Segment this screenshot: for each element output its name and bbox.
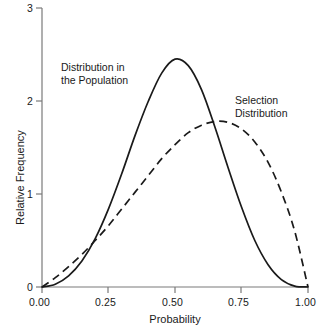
x-tick-label-0-75: 0.75 [228,296,249,308]
selection-curve-label-line-1: Selection [235,94,288,107]
chart-figure: 3 2 1 0 0.00 0.25 0.50 0.75 1.00 Relativ… [0,0,326,333]
chart-plot-area [0,0,326,333]
y-axis-label: Relative Frequency [14,130,26,225]
selection-curve-label-line-2: Distribution [235,107,288,120]
population-curve-label: Distribution in the Population [61,61,128,87]
population-curve-label-line-1: Distribution in [61,61,128,74]
y-tick-label-0: 0 [27,281,33,293]
y-tick-label-3: 3 [27,2,33,14]
y-tick-label-1: 1 [27,188,33,200]
y-tick-label-2: 2 [27,95,33,107]
selection-curve-label: Selection Distribution [235,94,288,120]
x-axis-label: Probability [42,313,308,325]
x-axis-ticks [42,287,308,293]
population-curve-label-line-2: the Population [61,74,128,87]
x-tick-label-0-00: 0.00 [29,296,50,308]
y-axis-ticks [36,8,42,287]
x-tick-label-0-50: 0.50 [162,296,183,308]
x-tick-label-1-00: 1.00 [295,296,316,308]
x-tick-label-0-25: 0.25 [95,296,116,308]
